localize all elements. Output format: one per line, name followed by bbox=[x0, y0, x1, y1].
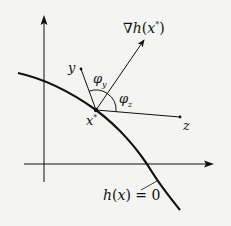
angle-arc-phi-y bbox=[89, 90, 107, 94]
y-endpoint-dot bbox=[80, 68, 83, 71]
curve-label: h(x) = 0 bbox=[103, 188, 160, 202]
vertical-axis bbox=[41, 15, 48, 182]
z-label: z bbox=[183, 119, 190, 132]
x-star-label: x* bbox=[86, 114, 97, 127]
phi-z-label: φz bbox=[119, 92, 132, 109]
gradient-label: ∇h(x*) bbox=[123, 21, 165, 35]
phi-y-label: φy bbox=[93, 72, 107, 89]
nabla-symbol: ∇ bbox=[123, 20, 133, 36]
x-star-point bbox=[94, 108, 98, 112]
angle-arc-phi-z bbox=[107, 94, 116, 112]
horizontal-axis bbox=[24, 161, 214, 168]
z-endpoint-dot bbox=[179, 116, 182, 119]
z-vector bbox=[96, 110, 181, 118]
y-label: y bbox=[68, 61, 75, 74]
